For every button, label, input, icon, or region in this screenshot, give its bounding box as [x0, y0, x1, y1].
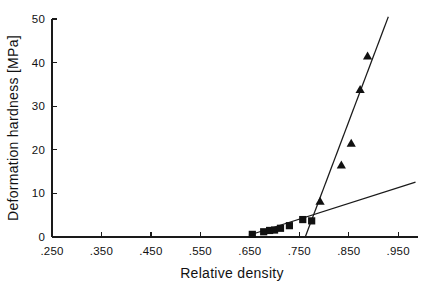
x-tick-label: .450: [139, 245, 162, 257]
series-triangle: [315, 51, 372, 204]
series-square: [249, 216, 316, 238]
x-tick-label: .750: [288, 245, 311, 257]
data-point-triangle: [347, 139, 356, 147]
x-tick-label: .350: [90, 245, 113, 257]
data-point-square: [299, 216, 306, 223]
data-point-square: [277, 225, 284, 232]
y-axis-title: Deformation hardness [MPa]: [5, 35, 21, 221]
x-tick-label: .650: [238, 245, 261, 257]
x-tick-label: .850: [337, 245, 360, 257]
y-tick-label: 10: [32, 187, 45, 199]
y-axis-ticks: [52, 19, 57, 193]
scatter-plot: .250.350.450.550.650.750.850.950 0102030…: [0, 0, 434, 288]
data-point-square: [308, 217, 315, 224]
x-axis-title: Relative density: [180, 265, 284, 281]
data-point-triangle: [356, 85, 365, 93]
y-tick-label: 30: [32, 100, 45, 112]
data-point-triangle: [363, 51, 372, 59]
y-tick-label: 40: [32, 57, 45, 69]
y-tick-label: 20: [32, 144, 45, 156]
data-point-triangle: [337, 160, 346, 168]
y-axis-tick-labels: 01020304050: [32, 13, 45, 243]
x-tick-label: .250: [40, 245, 63, 257]
chart-figure: .250.350.450.550.650.750.850.950 0102030…: [0, 0, 434, 288]
data-point-triangle: [315, 197, 324, 205]
y-tick-label: 0: [38, 231, 45, 243]
x-axis-tick-labels: .250.350.450.550.650.750.850.950: [40, 245, 409, 257]
x-tick-label: .950: [387, 245, 410, 257]
data-point-square: [249, 231, 256, 238]
data-point-square: [286, 222, 293, 229]
data-markers-group: [249, 51, 372, 238]
fit-lines-group: [249, 17, 416, 237]
y-tick-label: 50: [32, 13, 45, 25]
x-tick-label: .550: [189, 245, 212, 257]
